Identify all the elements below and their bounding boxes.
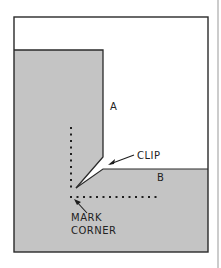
horizontal-guide-dot bbox=[129, 196, 131, 198]
vertical-guide-dot bbox=[70, 173, 72, 175]
horizontal-guide-dot bbox=[109, 196, 111, 198]
vertical-guide-dot bbox=[70, 160, 72, 162]
label-piece-b: B bbox=[157, 172, 164, 183]
vertical-guide-dot bbox=[70, 166, 72, 168]
label-mark: MARK bbox=[71, 212, 102, 223]
vertical-guide-dot bbox=[70, 134, 72, 136]
label-clip: CLIP bbox=[137, 150, 161, 161]
vertical-guide-dot bbox=[70, 186, 72, 188]
label-corner: CORNER bbox=[71, 225, 117, 236]
horizontal-guide-dot bbox=[122, 196, 124, 198]
horizontal-guide-dot bbox=[96, 196, 98, 198]
horizontal-guide-dot bbox=[116, 196, 118, 198]
horizontal-guide-dot bbox=[90, 196, 92, 198]
vertical-guide-dot bbox=[70, 140, 72, 142]
vertical-guide-dot bbox=[70, 153, 72, 155]
label-piece-a: A bbox=[110, 101, 117, 112]
vertical-guide-dot bbox=[70, 179, 72, 181]
horizontal-guide-dot bbox=[135, 196, 137, 198]
horizontal-guide-dot bbox=[70, 196, 72, 198]
vertical-guide-dot bbox=[70, 127, 72, 129]
horizontal-guide-dot bbox=[148, 196, 150, 198]
horizontal-guide-dot bbox=[142, 196, 144, 198]
horizontal-guide-dot bbox=[155, 196, 157, 198]
horizontal-guide-dot bbox=[77, 196, 79, 198]
diagram-canvas: A B CLIP MARK CORNER bbox=[0, 0, 221, 268]
horizontal-guide-dot bbox=[103, 196, 105, 198]
horizontal-guide-dot bbox=[83, 196, 85, 198]
vertical-guide-dot bbox=[70, 147, 72, 149]
